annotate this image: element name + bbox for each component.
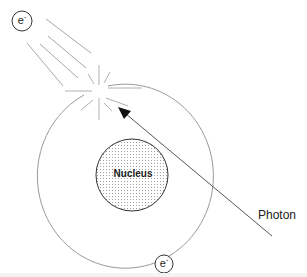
electron-charge: - [24, 13, 26, 20]
ejected-electron-label: e- [12, 13, 32, 26]
electron-trail [27, 19, 91, 86]
interaction-starburst [65, 65, 142, 120]
photon-label: Photon [258, 208, 296, 222]
nucleus-label: Nucleus [112, 168, 154, 179]
orbital-electron-label: e- [154, 256, 174, 269]
electron-charge: - [166, 256, 168, 263]
diagram-canvas [0, 0, 307, 277]
bottom-edge-band [0, 273, 307, 277]
atom-diagram: Nucleus Photon e- e- [0, 0, 307, 277]
